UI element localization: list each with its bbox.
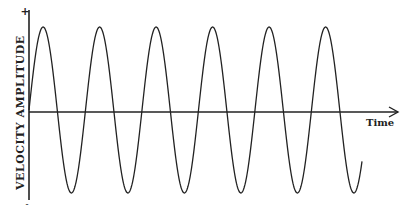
y-axis-label: VELOCITY AMPLITUDE (14, 35, 27, 191)
y-plus-label: + (20, 5, 29, 18)
x-axis-label: Time (366, 117, 394, 128)
sine-waveform (29, 27, 362, 193)
y-minus-label: - (25, 199, 28, 209)
velocity-diagram: + - VELOCITY AMPLITUDE Time (0, 0, 417, 210)
